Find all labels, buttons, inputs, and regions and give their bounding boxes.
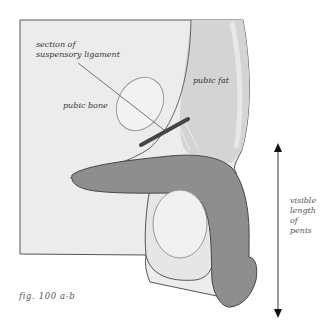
ligament-label-line1: section of [36, 40, 120, 50]
length-arrow [274, 143, 282, 318]
pubic-fat-label: pubic fat [193, 76, 229, 86]
length-label-line3: of [290, 216, 316, 226]
visible-length-label: visible length of penis [290, 196, 316, 236]
ligament-label: section of suspensory ligament [36, 40, 120, 60]
length-label-line1: visible [290, 196, 316, 206]
length-label-line2: length [290, 206, 316, 216]
pubic-bone-label: pubic bone [63, 101, 108, 111]
ligament-label-line2: suspensory ligament [36, 50, 120, 60]
testis [153, 190, 207, 258]
length-label-line4: penis [290, 226, 316, 236]
figure-caption: fig. 100 a-b [19, 291, 75, 301]
